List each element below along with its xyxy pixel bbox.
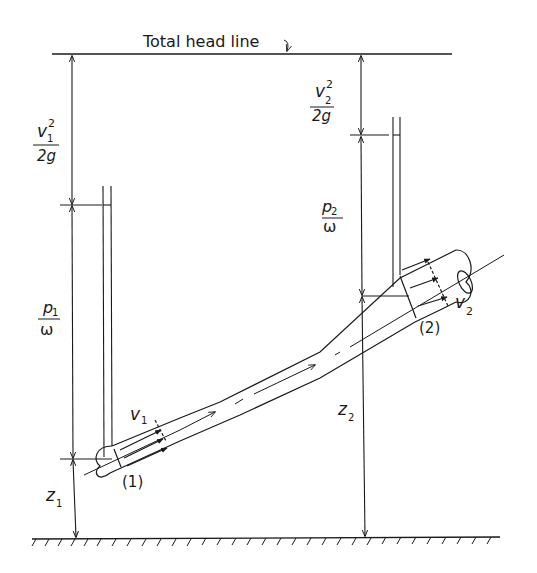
svg-text:1: 1 bbox=[52, 307, 58, 318]
svg-text:2: 2 bbox=[325, 95, 331, 106]
svg-text:2g: 2g bbox=[312, 107, 331, 125]
section-2-label: (2) bbox=[419, 319, 440, 337]
svg-text:ω: ω bbox=[323, 217, 336, 236]
velocity-1-label: v 1 bbox=[130, 404, 147, 426]
svg-text:2: 2 bbox=[48, 117, 55, 130]
svg-text:z: z bbox=[45, 485, 56, 505]
velocity-head-2-label: v 2 2 2g bbox=[310, 78, 334, 125]
svg-text:1: 1 bbox=[56, 498, 62, 509]
piezometer-tube-1 bbox=[103, 186, 112, 457]
svg-text:2g: 2g bbox=[37, 147, 56, 165]
svg-text:2: 2 bbox=[348, 412, 354, 423]
pressure-head-2-label: p 2 ω bbox=[321, 197, 343, 236]
pressure-head-1-label: p 1 ω bbox=[38, 298, 60, 339]
svg-text:1: 1 bbox=[47, 133, 53, 144]
svg-text:ω: ω bbox=[40, 320, 53, 339]
section-1-label: (1) bbox=[122, 473, 143, 491]
total-head-line: Total head line bbox=[52, 32, 452, 54]
svg-text:2: 2 bbox=[466, 305, 473, 318]
svg-text:2: 2 bbox=[326, 78, 333, 91]
velocity-arrows-1 bbox=[120, 430, 167, 466]
svg-text:1: 1 bbox=[141, 415, 147, 426]
piezometer-tube-2 bbox=[393, 117, 400, 287]
dimension-line-section-1 bbox=[60, 56, 112, 537]
pipe bbox=[84, 250, 504, 477]
svg-text:2: 2 bbox=[331, 206, 337, 217]
svg-text:v: v bbox=[130, 404, 141, 424]
bernoulli-pipe-diagram: Total head line bbox=[0, 0, 537, 573]
total-head-line-label: Total head line bbox=[142, 32, 259, 51]
elevation-1-label: z 1 bbox=[45, 485, 62, 509]
velocity-head-1-label: v 1 2 2g bbox=[33, 117, 59, 165]
datum-ground bbox=[32, 537, 500, 546]
svg-text:v: v bbox=[455, 292, 466, 312]
elevation-2-label: z 2 bbox=[337, 399, 354, 423]
leader-arrow-icon bbox=[284, 40, 288, 51]
svg-text:z: z bbox=[337, 399, 348, 419]
